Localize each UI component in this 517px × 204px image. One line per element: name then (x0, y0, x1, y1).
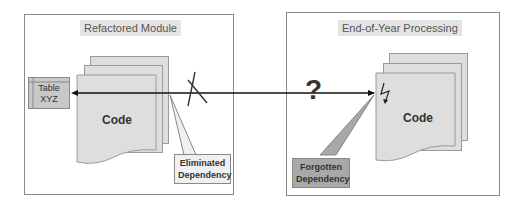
eliminated-callout-line2: Dependency (178, 169, 227, 181)
eliminated-callout-pointer (170, 95, 196, 155)
forgotten-callout-pointer (320, 95, 374, 155)
forgotten-callout-line1: Forgotten (296, 161, 346, 173)
arrowhead-left-icon (71, 90, 78, 96)
eliminated-dependency-callout: Eliminated Dependency (174, 154, 231, 184)
forgotten-callout-line2: Dependency (296, 173, 346, 185)
cross-mark-icon (188, 72, 195, 106)
question-mark-icon: ? (305, 76, 322, 104)
eliminated-callout-line1: Eliminated (178, 157, 227, 169)
forgotten-dependency-callout: Forgotten Dependency (292, 158, 350, 188)
connector-graphics (0, 0, 517, 204)
